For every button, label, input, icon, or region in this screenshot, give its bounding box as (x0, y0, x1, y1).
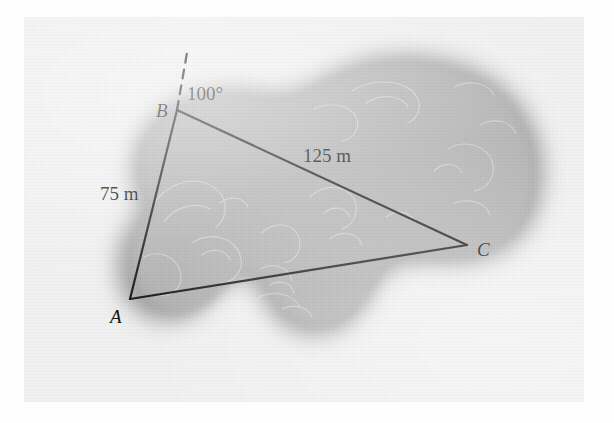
segment-bc (177, 110, 467, 245)
side-label-ab: 75 m (100, 183, 139, 205)
vertex-label-b: B (156, 100, 168, 122)
segment-ac (130, 245, 467, 299)
angle-label-b: 100° (187, 83, 223, 105)
triangle-figure (24, 17, 584, 402)
scanned-figure-area: B A C 100° 125 m 75 m (24, 17, 584, 402)
figure-page: B A C 100° 125 m 75 m (0, 0, 614, 423)
side-label-bc: 125 m (303, 145, 351, 167)
vertex-label-c: C (477, 239, 490, 261)
vertex-label-a: A (110, 306, 122, 328)
